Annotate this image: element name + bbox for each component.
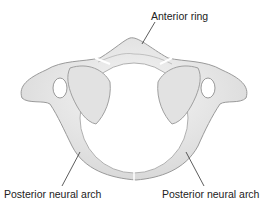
label-posterior-neural-arch-right: Posterior neural arch xyxy=(162,188,259,200)
leader-anterior-ring xyxy=(142,22,155,44)
left-transverse-foramen xyxy=(53,78,67,98)
right-transverse-foramen xyxy=(201,78,215,98)
atlas-vertebra-illustration xyxy=(0,0,267,215)
label-posterior-neural-arch-left: Posterior neural arch xyxy=(4,188,101,200)
leader-posterior-left xyxy=(62,152,80,186)
label-anterior-ring: Anterior ring xyxy=(151,10,208,22)
leader-posterior-right xyxy=(186,152,204,186)
